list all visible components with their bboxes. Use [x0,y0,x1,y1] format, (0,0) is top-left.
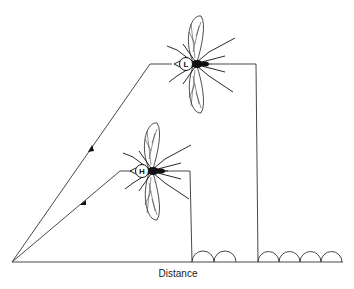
mosquito-label-H: H [139,167,145,176]
hop-arches-upper [258,252,342,263]
lower-descent-path [162,171,192,262]
mosquito-label-L: L [184,60,189,69]
upper-descent-path [212,64,258,262]
mosquito-L-icon: L [167,16,235,113]
hop-arches-lower [192,251,236,262]
mosquito-H-icon: H [123,123,191,220]
flight-diagram: L H [0,0,354,289]
x-axis-label: Distance [148,268,208,279]
lower-flight-path [12,171,132,262]
